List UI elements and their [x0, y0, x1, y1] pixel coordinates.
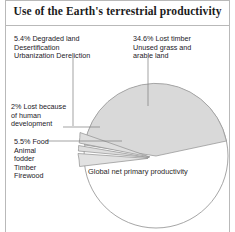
callout-timber-line3: arable land [133, 52, 191, 61]
callout-degraded-land: 5.4%Degraded land Desertification Urbani… [14, 35, 90, 61]
callout-human-development: 2%Lost because of human development [11, 103, 66, 129]
callout-human-text1: Lost because [23, 102, 66, 111]
callout-lost-timber: 34.6%Lost timber Unused grass and arable… [133, 35, 191, 61]
callout-food-fodder: 5.5%Food Animal fodder Timber Firewood [14, 138, 49, 181]
figure-container: Use of the Earth's terrestrial productiv… [0, 0, 235, 232]
pie-inner-label-global-net-primary-productivity: Global net primary productivity [88, 167, 188, 176]
callout-food-line5: Firewood [14, 172, 49, 181]
callout-human-line3: development [11, 120, 66, 129]
callout-food-percent: 5.5% [14, 137, 30, 146]
callout-food-text1: Food [32, 137, 48, 146]
callout-degraded-text1: Degraded land [32, 34, 79, 43]
callout-human-percent: 2% [11, 102, 21, 111]
callout-timber-percent: 34.6% [133, 34, 153, 43]
callout-degraded-line3: Urbanization Dereliction [14, 52, 90, 61]
callout-timber-text1: Lost timber [155, 34, 191, 43]
callout-degraded-percent: 5.4% [14, 34, 30, 43]
